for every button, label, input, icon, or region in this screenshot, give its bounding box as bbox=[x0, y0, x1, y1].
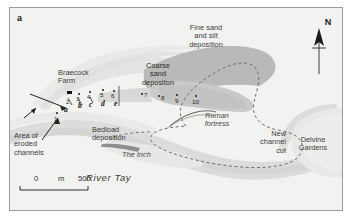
label-coarse-sand-deposition: Coarse sand depositon bbox=[128, 62, 188, 87]
label-delvine-gardens: Delvine Gardens bbox=[288, 136, 338, 153]
site-label-d: d bbox=[101, 99, 105, 108]
site-label-9: 9 bbox=[175, 97, 178, 104]
label-new-channel-cut: New channel cut bbox=[232, 130, 286, 155]
figure-map-panel-a: a Fine sand and silt deposition Coarse s… bbox=[0, 0, 350, 217]
scale-label-unit: m bbox=[58, 174, 64, 183]
site-label-1: 1 bbox=[54, 115, 57, 122]
site-dot-7[interactable] bbox=[141, 93, 143, 95]
site-label-a: a bbox=[64, 105, 68, 114]
panel-letter: a bbox=[17, 13, 22, 23]
site-dot-8[interactable] bbox=[158, 95, 160, 97]
label-area-of-eroded-channels: Area of eroded channels bbox=[14, 132, 72, 157]
site-label-10: 10 bbox=[192, 98, 199, 105]
north-arrow-letter: N bbox=[316, 17, 340, 27]
site-square-farm[interactable] bbox=[67, 91, 72, 94]
site-label-b: b bbox=[78, 101, 82, 110]
site-label-8: 8 bbox=[161, 94, 164, 101]
scale-label-zero: 0 bbox=[34, 174, 38, 183]
label-braecock-farm: Braecock Farm bbox=[58, 69, 114, 86]
site-dot-9[interactable] bbox=[176, 94, 178, 96]
site-label-5: 5 bbox=[100, 91, 103, 98]
scale-label-max: 500 bbox=[78, 174, 91, 183]
site-label-4: 4 bbox=[87, 93, 90, 100]
label-fine-sand-silt-deposition: Fine sand and silt deposition bbox=[170, 24, 242, 49]
north-arrow: N bbox=[316, 17, 340, 79]
site-label-e: e bbox=[114, 99, 117, 108]
scale-bar: 0 m 500 bbox=[28, 174, 108, 200]
site-label-2: 2 bbox=[66, 98, 69, 105]
map-frame: a Fine sand and silt deposition Coarse s… bbox=[9, 7, 343, 211]
site-dot-10[interactable] bbox=[195, 95, 197, 97]
site-label-6: 6 bbox=[111, 92, 114, 99]
label-the-inch: The Inch bbox=[122, 151, 166, 159]
label-roman-fortress: Roman fortress bbox=[188, 112, 246, 129]
site-dot-1[interactable] bbox=[56, 112, 58, 114]
label-bedload-deposition: Bedload deposition bbox=[92, 126, 156, 143]
site-label-7: 7 bbox=[144, 91, 147, 98]
site-label-c: c bbox=[89, 100, 92, 109]
